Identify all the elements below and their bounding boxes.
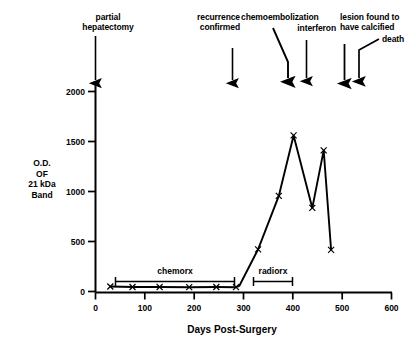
x-tick-label: 200 <box>187 303 201 313</box>
x-tick-label: 0 <box>93 303 98 313</box>
y-tick-label: 2000 <box>66 87 85 97</box>
annotation-line: recurrence <box>152 12 240 22</box>
annotation-recurrence-confirmed: recurrence confirmed <box>152 12 240 32</box>
y-tick-label: 1500 <box>66 137 85 147</box>
event-arrow-death <box>359 39 379 78</box>
x-axis-title: Days Post-Surgery <box>187 324 277 335</box>
y-axis-title-line: O.D. <box>14 158 70 169</box>
x-axis <box>96 293 393 300</box>
y-axis-title-line: OF <box>14 169 70 180</box>
y-tick-label: 0 <box>80 287 85 297</box>
annotation-line: hepatectomy <box>62 22 154 32</box>
treatment-bar-label: radiorx <box>259 266 288 276</box>
y-tick-label: 500 <box>71 237 85 247</box>
annotation-lesion-calcified: lesion found to have calcified <box>340 12 399 32</box>
data-point-markers <box>107 132 334 290</box>
treatment-bar-radiorx: radiorx <box>253 266 293 286</box>
annotation-line: death <box>382 34 404 44</box>
annotation-interferon: interferon <box>248 23 336 33</box>
annotation-line: interferon <box>248 23 336 33</box>
x-tick-label: 600 <box>384 303 398 313</box>
x-tick-label: 400 <box>286 303 300 313</box>
annotation-line: partial <box>62 12 154 22</box>
chart-figure: partial hepatectomy recurrence confirmed… <box>0 0 416 348</box>
annotation-line: have calcified <box>340 22 399 32</box>
annotation-line: lesion found to <box>340 12 399 22</box>
annotation-death: death <box>382 34 404 44</box>
event-arrow-chemoembolization <box>273 28 288 78</box>
annotation-partial-hepatectomy: partial hepatectomy <box>62 12 154 32</box>
x-tick-label: 100 <box>138 303 152 313</box>
y-axis-title: O.D. OF 21 kDa Band <box>14 158 70 200</box>
data-series-line <box>110 135 331 287</box>
x-tick-labels: 0 100 200 300 400 500 600 <box>93 303 399 313</box>
annotation-line: chemoembolization <box>241 12 319 22</box>
treatment-bar-label: chemorx <box>157 266 193 276</box>
x-tick-label: 300 <box>236 303 250 313</box>
treatment-bar-chemorx: chemorx <box>115 266 235 286</box>
y-axis-title-line: 21 kDa <box>14 179 70 190</box>
annotation-chemoembolization: chemoembolization <box>241 12 319 22</box>
y-axis-title-line: Band <box>14 190 70 201</box>
x-tick-label: 500 <box>335 303 349 313</box>
annotation-line: confirmed <box>152 22 240 32</box>
y-axis <box>88 84 96 293</box>
